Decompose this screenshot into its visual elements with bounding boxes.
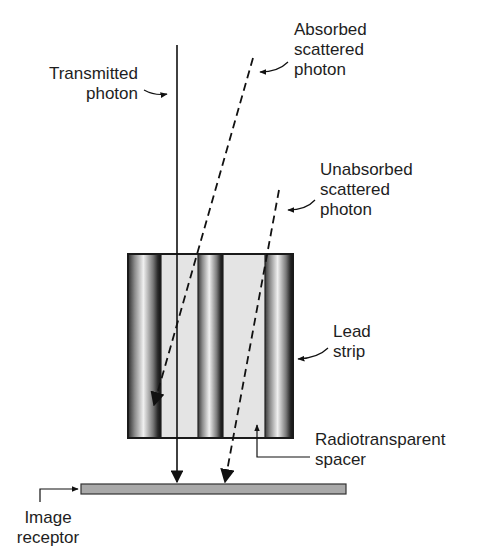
lead-strip-leader-arrow <box>298 348 328 359</box>
lead-strip-3 <box>265 255 293 437</box>
grid-box <box>128 254 293 438</box>
unabsorbed-leader-arrow <box>288 200 315 210</box>
lead-strip-label: Lead strip <box>333 322 371 362</box>
image-receptor <box>81 484 346 494</box>
transmitted-leader-arrow <box>144 90 167 95</box>
transmitted-photon-label: Transmitted photon <box>20 64 138 104</box>
receptor-leader-arrow <box>40 489 78 502</box>
absorbed-photon-label: Absorbed scattered photon <box>294 20 367 80</box>
image-receptor-label: Image receptor <box>8 508 88 548</box>
spacer-label: Radiotransparent spacer <box>315 430 445 470</box>
unabsorbed-photon-label: Unabsorbed scattered photon <box>320 160 413 220</box>
lead-strip-1 <box>129 255 161 437</box>
lead-strip-2 <box>198 255 223 437</box>
absorbed-leader-arrow <box>260 62 288 72</box>
